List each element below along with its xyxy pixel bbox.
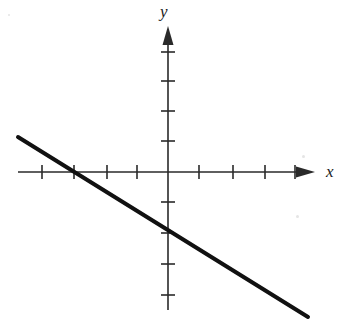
x-axis-arrowhead [296,167,315,178]
graph-canvas [0,0,350,329]
x-axis-label: x [326,162,334,182]
y-axis-label: y [160,2,168,22]
plotted-line [18,137,308,317]
scan-speck [302,155,305,158]
scan-speck [296,215,299,218]
y-axis-arrowhead [163,26,174,45]
coordinate-plane-figure: x y [0,0,350,329]
scan-speck [8,14,10,16]
